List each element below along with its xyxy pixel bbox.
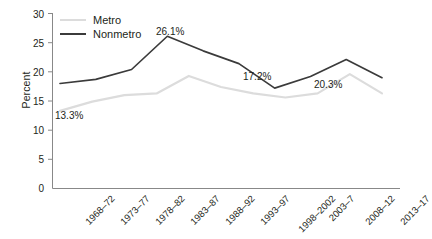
- annotation-13-3: 13.3%: [55, 110, 83, 121]
- legend-item-nonmetro: Nonmetro: [60, 27, 141, 41]
- annotation-26-1: 26.1%: [156, 26, 184, 37]
- legend-swatch-nonmetro-icon: [60, 33, 86, 35]
- legend-label-metro: Metro: [93, 14, 121, 26]
- legend-item-metro: Metro: [60, 13, 141, 27]
- annotation-17-2: 17.2%: [243, 71, 271, 82]
- legend-swatch-metro-icon: [60, 19, 86, 21]
- annotation-20-3: 20.3%: [314, 79, 342, 90]
- legend: Metro Nonmetro: [60, 13, 141, 41]
- legend-label-nonmetro: Nonmetro: [93, 28, 141, 40]
